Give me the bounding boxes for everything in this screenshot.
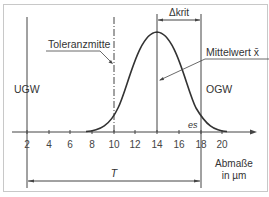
toleranzmitte-label: Toleranzmitte — [48, 38, 111, 50]
mittelwert-label: Mittelwert x̄ — [206, 46, 260, 58]
arrow-left-icon — [28, 180, 34, 183]
leader-arrow-icon — [159, 77, 164, 81]
arrow-left-icon — [158, 19, 163, 22]
unit-label-line1: Abmaße — [215, 158, 253, 169]
leader-line — [160, 59, 205, 80]
arrow-right-icon — [194, 180, 200, 183]
es-label: es — [188, 120, 198, 130]
tick-label: 10 — [108, 139, 120, 150]
axis-arrow-icon — [250, 130, 257, 135]
ugw-label: UGW — [14, 83, 40, 95]
tolerance-diagram: 2 4 6 8 10 12 14 16 18 20 Δkrit Toleranz… — [0, 0, 269, 197]
tick-label: 8 — [89, 139, 95, 150]
tick-label: 6 — [67, 139, 73, 150]
tick-label: 16 — [173, 139, 185, 150]
delta-krit-label: Δkrit — [169, 7, 189, 18]
tick-label: 12 — [129, 139, 141, 150]
arrow-right-icon — [195, 19, 200, 22]
unit-label-line2: in µm — [222, 170, 247, 181]
tick-label: 4 — [46, 139, 52, 150]
tolerance-label: T — [111, 167, 119, 179]
ogw-label: OGW — [206, 83, 232, 95]
tick-label: 20 — [216, 139, 228, 150]
tick-label: 14 — [151, 139, 163, 150]
